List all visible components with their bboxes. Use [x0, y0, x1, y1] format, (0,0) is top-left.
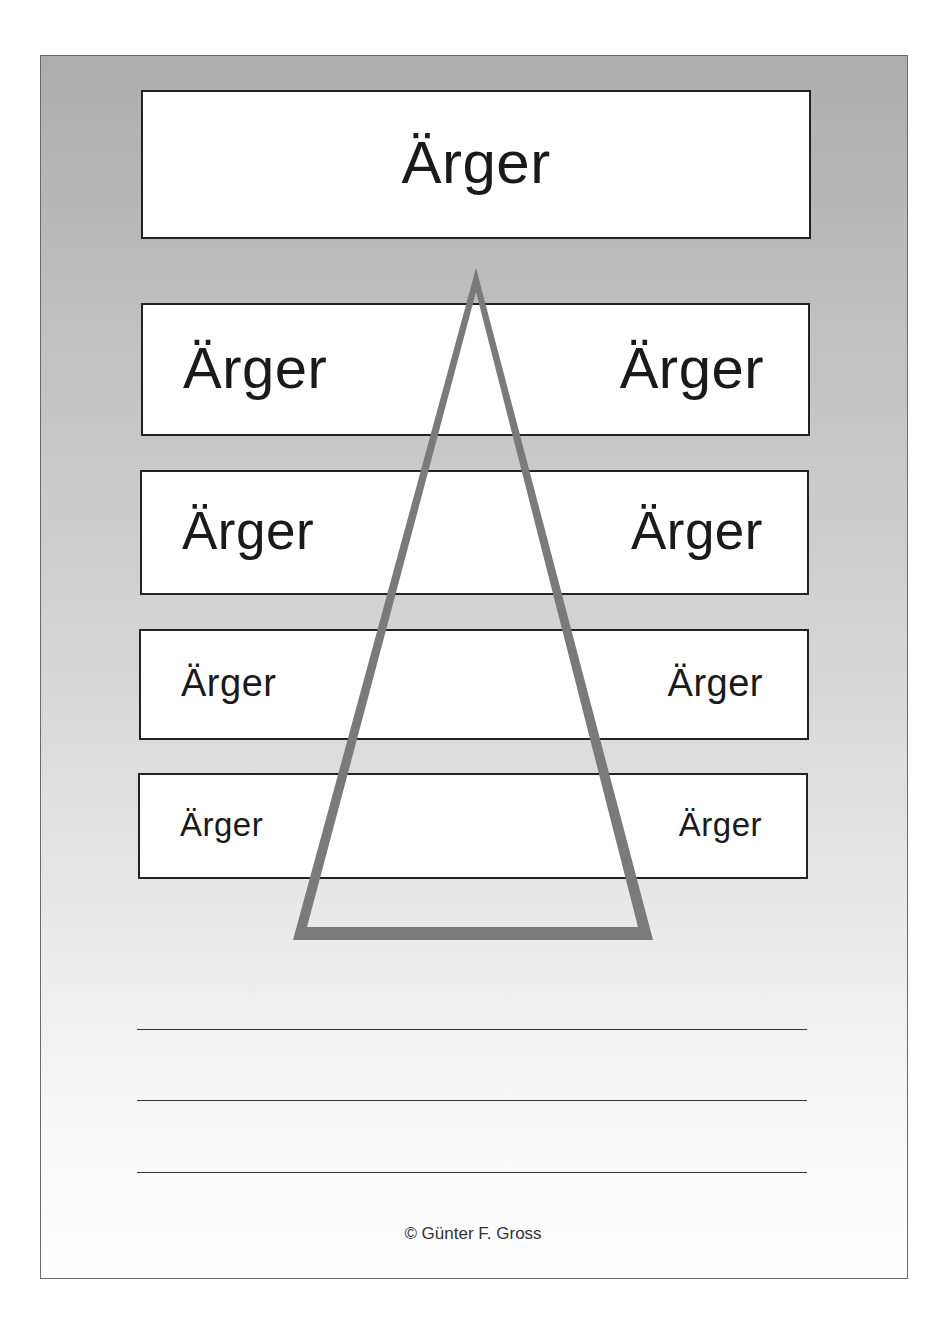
- row-3-right-word: Ärger: [668, 664, 763, 702]
- row-box-2: Ärger Ärger: [140, 470, 809, 595]
- top-word: Ärger: [401, 132, 550, 192]
- writing-line-1[interactable]: [137, 1029, 807, 1030]
- row-1-right-word: Ärger: [620, 338, 764, 396]
- writing-line-3[interactable]: [137, 1172, 807, 1173]
- top-box: Ärger: [141, 90, 811, 239]
- row-4-right-word: Ärger: [679, 808, 762, 841]
- row-1-left-word: Ärger: [183, 338, 327, 396]
- copyright-text: © Günter F. Gross: [0, 1224, 946, 1244]
- writing-line-2[interactable]: [137, 1100, 807, 1101]
- row-4-left-word: Ärger: [180, 808, 263, 841]
- row-2-left-word: Ärger: [182, 504, 314, 557]
- row-2-right-word: Ärger: [631, 504, 763, 557]
- row-box-4: Ärger Ärger: [138, 773, 808, 879]
- row-box-1: Ärger Ärger: [141, 303, 810, 436]
- row-3-left-word: Ärger: [181, 664, 276, 702]
- row-box-3: Ärger Ärger: [139, 629, 809, 740]
